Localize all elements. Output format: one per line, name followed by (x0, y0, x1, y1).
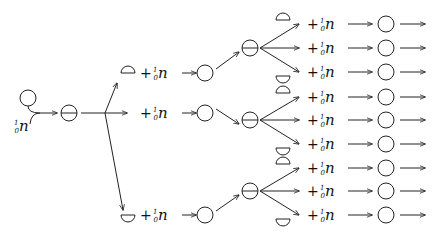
absorption-curve (28, 106, 40, 113)
neutron-label: 10n (320, 182, 335, 200)
neutron-label: 10n (320, 206, 335, 224)
plus-sign: + (307, 64, 319, 80)
neutron-label: 10n (153, 104, 168, 122)
plus-sign: + (140, 105, 152, 121)
nucleus-icon (378, 89, 394, 105)
neutron-label: 10n (320, 15, 335, 33)
neutron-label: 10n (320, 159, 335, 177)
plus-sign: + (307, 160, 319, 176)
fragment-icon (276, 219, 290, 226)
arrow (105, 113, 123, 210)
plus-sign: + (307, 89, 319, 105)
nucleus-icon (378, 40, 394, 56)
plus-sign: + (307, 112, 319, 128)
fragment-icon (276, 86, 290, 93)
arrow (260, 97, 299, 120)
arrow (260, 48, 299, 72)
nucleus-icon (378, 112, 394, 128)
fragment-icon (276, 148, 290, 155)
neutron-label: 10n (320, 111, 335, 129)
neutron-label: 10n (14, 117, 29, 135)
neutron-label: 10n (320, 88, 335, 106)
chain-reaction-diagram: 10n+10n+10n+10n+10n+10n+10n+10n+10n+10n+… (0, 0, 447, 239)
plus-sign: + (307, 183, 319, 199)
neutron-label: 10n (153, 206, 168, 224)
uranium-nucleus-icon (20, 90, 36, 106)
fragment-icon (121, 215, 135, 222)
nucleus-icon (378, 136, 394, 152)
plus-sign: + (307, 207, 319, 223)
plus-sign: + (307, 40, 319, 56)
fragment-icon (276, 76, 290, 83)
neutron-label: 10n (320, 39, 335, 57)
neutron-curve (30, 113, 40, 124)
arrow (105, 83, 117, 113)
fragment-icon (276, 157, 290, 164)
plus-sign: + (140, 65, 152, 81)
nucleus-icon (378, 207, 394, 223)
neutron-label: 10n (320, 63, 335, 81)
nucleus-icon (197, 207, 213, 223)
arrow (260, 168, 299, 191)
nucleus-icon (197, 105, 213, 121)
nucleus-icon (378, 16, 394, 32)
arrow (216, 109, 239, 124)
arrow (260, 120, 299, 144)
nucleus-icon (197, 65, 213, 81)
fragment-icon (121, 66, 135, 73)
arrow (260, 191, 299, 215)
nucleus-icon (378, 183, 394, 199)
nucleus-icon (378, 160, 394, 176)
arrow (216, 195, 239, 211)
neutron-label: 10n (320, 135, 335, 153)
arrow (216, 52, 239, 69)
plus-sign: + (140, 207, 152, 223)
fragment-icon (276, 13, 290, 20)
arrow (260, 24, 299, 48)
nucleus-icon (378, 64, 394, 80)
plus-sign: + (307, 16, 319, 32)
neutron-label: 10n (153, 64, 168, 82)
plus-sign: + (307, 136, 319, 152)
